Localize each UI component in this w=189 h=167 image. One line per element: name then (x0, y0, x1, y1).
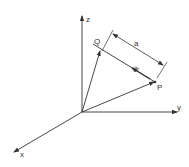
point-p-label: P (157, 83, 162, 92)
distance-a-label: a (134, 39, 139, 48)
position-vector-p (82, 82, 154, 112)
y-axis-label: y (177, 103, 181, 112)
point-q-label: Q (94, 37, 100, 46)
point-p (154, 81, 157, 84)
extension-line-q (102, 30, 113, 51)
x-axis (14, 112, 82, 152)
x-axis-label: x (20, 150, 24, 159)
position-vector-q (82, 51, 100, 112)
vector-u-label: ū (131, 65, 141, 73)
vector-diagram: z y x Q P ū a (0, 0, 189, 167)
z-axis-label: z (86, 15, 90, 24)
